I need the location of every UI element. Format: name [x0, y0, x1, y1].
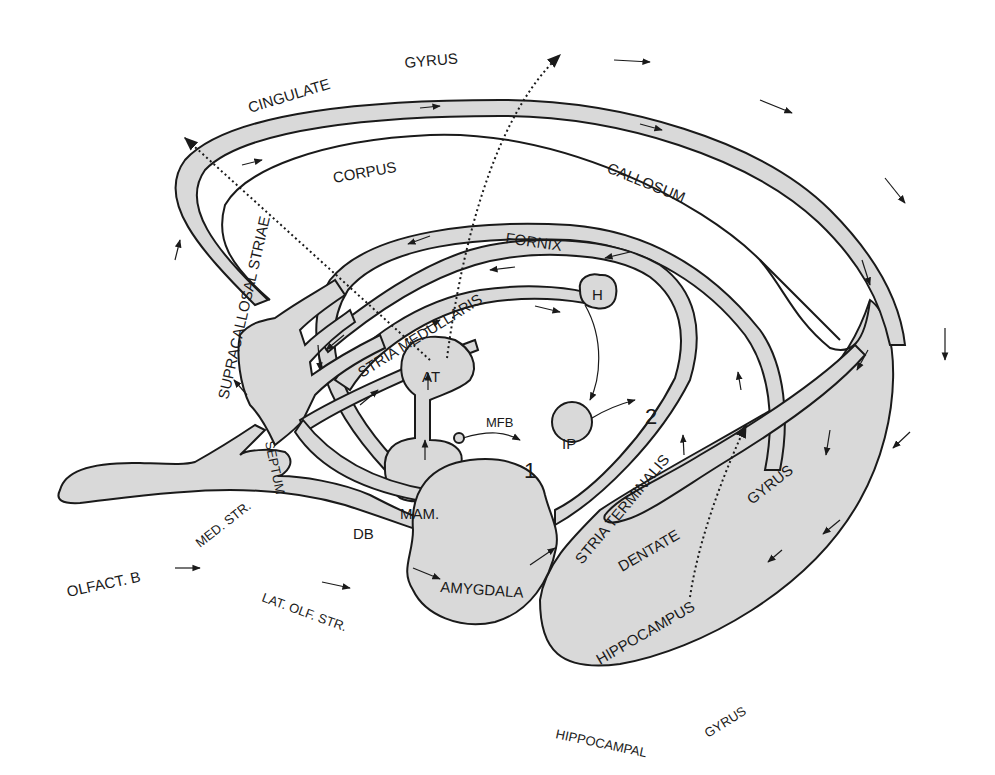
label-gyrus-bottom: GYRUS — [702, 703, 749, 740]
ip-to-2-arrow — [592, 400, 635, 418]
mam-knob — [454, 433, 464, 443]
label-1: 1 — [524, 458, 536, 483]
limbic-diagram: CINGULATE GYRUS CORPUS CALLOSUM FORNIX S… — [0, 0, 995, 775]
label-callosum: CALLOSUM — [605, 159, 688, 206]
label-hippocampal: HIPPOCAMPAL — [554, 726, 648, 760]
label-gyrus-top: GYRUS — [404, 49, 459, 71]
label-ip: IP — [562, 435, 576, 452]
label-corpus: CORPUS — [332, 158, 398, 186]
label-h: H — [592, 286, 603, 303]
supracallosal-striae-tract — [175, 100, 905, 345]
label-db: DB — [353, 525, 374, 542]
label-olfact-b: OLFACT. B — [65, 568, 142, 600]
label-mam: MAM. — [400, 505, 439, 522]
label-2: 2 — [645, 404, 657, 429]
label-at: AT — [422, 368, 440, 385]
h-to-ip-arrow — [585, 305, 599, 400]
label-med-str: MED. STR. — [193, 498, 254, 550]
mam-to-1-arrow — [463, 433, 520, 440]
amygdala-shape — [407, 459, 557, 624]
label-lat-olf-str: LAT. OLF. STR. — [260, 590, 349, 635]
label-mfb: MFB — [486, 415, 513, 430]
